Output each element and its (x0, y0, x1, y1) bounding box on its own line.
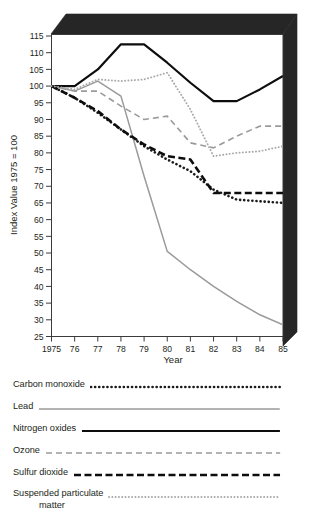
svg-text:70: 70 (34, 181, 44, 191)
svg-text:76: 76 (70, 344, 80, 354)
legend-item-carbon-monoxide: Carbon monoxide (0, 378, 312, 400)
svg-text:60: 60 (34, 215, 44, 225)
svg-text:25: 25 (34, 332, 44, 342)
svg-text:84: 84 (255, 344, 265, 354)
svg-text:75: 75 (34, 165, 44, 175)
svg-text:80: 80 (34, 148, 44, 158)
svg-text:90: 90 (34, 115, 44, 125)
chart-canvas: 2530354045505560657075808590951001051101… (0, 0, 312, 372)
svg-text:35: 35 (34, 298, 44, 308)
legend-label-suspended-particulate-matter: Suspended particulate matter (13, 488, 103, 511)
svg-text:30: 30 (34, 315, 44, 325)
chart-legend: Carbon monoxide Lead Nitrogen oxides Ozo… (0, 378, 312, 522)
pollutant-index-line-chart: 2530354045505560657075808590951001051101… (0, 0, 312, 372)
svg-text:55: 55 (34, 232, 44, 242)
svg-text:85: 85 (278, 344, 288, 354)
legend-item-sulfur-dioxide: Sulfur dioxide (0, 466, 312, 488)
svg-text:95: 95 (34, 98, 44, 108)
svg-text:83: 83 (232, 344, 242, 354)
svg-text:81: 81 (186, 344, 196, 354)
svg-text:65: 65 (34, 198, 44, 208)
svg-text:78: 78 (116, 344, 126, 354)
x-axis-ticks: 197576777879808182838485 (42, 337, 288, 354)
legend-label-carbon-monoxide: Carbon monoxide (13, 378, 85, 390)
svg-text:45: 45 (34, 265, 44, 275)
legend-item-suspended-particulate-matter: Suspended particulate matter (0, 488, 312, 510)
svg-text:79: 79 (139, 344, 149, 354)
svg-text:40: 40 (34, 282, 44, 292)
x-axis-title: Year (163, 354, 182, 365)
svg-text:85: 85 (34, 131, 44, 141)
legend-swatch-carbon-monoxide (90, 383, 281, 391)
y-axis-ticks: 2530354045505560657075808590951001051101… (29, 31, 51, 342)
legend-label-line1: Suspended particulate (13, 488, 103, 498)
legend-item-lead: Lead (0, 400, 312, 422)
legend-item-nitrogen-oxides: Nitrogen oxides (0, 422, 312, 444)
legend-label-nitrogen-oxides: Nitrogen oxides (13, 422, 76, 434)
legend-label-sulfur-dioxide: Sulfur dioxide (13, 466, 68, 478)
legend-label-line2: matter (13, 500, 65, 512)
svg-text:77: 77 (93, 344, 103, 354)
legend-swatch-ozone (45, 449, 281, 457)
svg-text:1975: 1975 (42, 344, 61, 354)
legend-swatch-lead (38, 405, 281, 413)
svg-text:110: 110 (30, 48, 44, 58)
svg-text:100: 100 (29, 81, 44, 91)
legend-swatch-nitrogen-oxides (81, 427, 281, 435)
svg-text:82: 82 (209, 344, 219, 354)
legend-label-ozone: Ozone (13, 444, 40, 456)
legend-label-lead: Lead (13, 400, 33, 412)
legend-swatch-sulfur-dioxide (73, 471, 281, 479)
svg-text:80: 80 (162, 344, 172, 354)
y-axis-title: Index Value 1975 = 100 (8, 135, 19, 235)
svg-text:50: 50 (34, 248, 44, 258)
legend-item-ozone: Ozone (0, 444, 312, 466)
svg-text:105: 105 (29, 65, 44, 75)
legend-swatch-suspended-particulate-matter (108, 493, 281, 501)
svg-text:115: 115 (30, 31, 44, 41)
